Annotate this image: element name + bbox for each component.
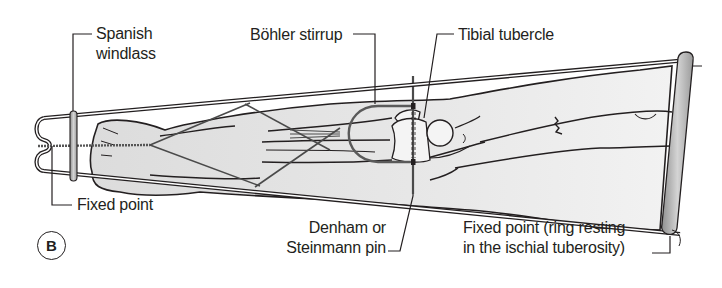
label-line: windlass <box>96 44 156 64</box>
label-fixed-point-ring: Fixed point (ring resting in the ischial… <box>463 218 625 258</box>
thomas-splint-diagram: Spanish windlass Böhler stirrup Tibial t… <box>0 0 722 288</box>
panel-label-badge: B <box>37 231 66 260</box>
label-line: Denham or <box>256 218 386 238</box>
label-tibial-tubercle: Tibial tubercle <box>458 25 554 45</box>
label-line: Spanish <box>96 24 156 44</box>
label-line: in the ischial tuberosity) <box>463 238 625 258</box>
label-denham-pin: Denham or Steinmann pin <box>256 218 386 258</box>
label-bohler-stirrup: Böhler stirrup <box>250 25 342 45</box>
label-line: Steinmann pin <box>256 238 386 258</box>
label-line: Fixed point (ring resting <box>463 218 625 238</box>
spanish-windlass <box>70 111 77 181</box>
label-spanish-windlass: Spanish windlass <box>96 24 156 64</box>
label-fixed-point-left: Fixed point <box>77 195 153 215</box>
